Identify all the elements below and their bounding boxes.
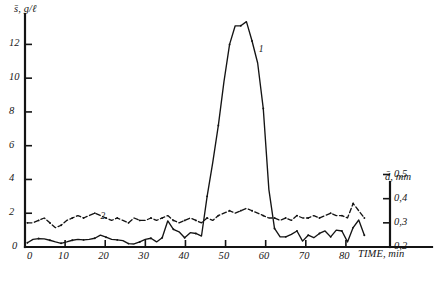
series-1-point xyxy=(363,234,365,236)
y-axis-tick-label: 8 xyxy=(9,106,14,117)
curve-2-label: 2 xyxy=(101,212,106,222)
series-2-point xyxy=(83,217,85,219)
y2-axis-tick-label: 0,5 xyxy=(394,169,407,180)
series-1-point xyxy=(251,40,253,42)
series-1-point xyxy=(172,228,174,230)
series-1-point xyxy=(38,238,40,240)
figure-container: s̄, g/ℓ d̄, mm TIME, min 1 2 024681012 0… xyxy=(0,0,437,281)
y2-axis-tick-label: 0,2 xyxy=(394,241,407,252)
x-axis-tick-label: 40 xyxy=(178,251,189,262)
series-2-point xyxy=(251,210,253,212)
series-1-point xyxy=(341,230,343,232)
series-1-point xyxy=(150,237,152,239)
series-2-point xyxy=(49,222,51,224)
y2-axis-tick-label: 0,3 xyxy=(394,217,407,228)
series-2-point xyxy=(206,217,208,219)
series-2-point xyxy=(318,217,320,219)
series-group xyxy=(26,22,365,245)
series-1-point xyxy=(71,239,73,241)
series-2-point xyxy=(184,219,186,221)
series-2-point xyxy=(161,217,163,219)
series-1-point xyxy=(262,108,264,110)
series-2-point xyxy=(38,219,40,221)
series-1-point xyxy=(161,237,163,239)
x-axis-tick-label: 80 xyxy=(339,251,350,262)
series-1-point xyxy=(128,243,130,245)
series-2-point xyxy=(240,210,242,212)
y-axis-title: s̄, g/ℓ xyxy=(14,4,36,15)
x-axis-tick-label: 20 xyxy=(98,251,109,262)
series-1-point xyxy=(26,242,28,244)
y2-axis-tick-label: 0,4 xyxy=(394,193,407,204)
series-2-point xyxy=(285,217,287,219)
series-1-point xyxy=(94,237,96,239)
series-1-point xyxy=(274,227,276,229)
series-1-point xyxy=(116,239,118,241)
series-1-point xyxy=(206,195,208,197)
series-2-point xyxy=(94,212,96,214)
series-2-point xyxy=(229,210,231,212)
series-1-point xyxy=(195,233,197,235)
series-2-point xyxy=(195,219,197,221)
curve-1-label: 1 xyxy=(259,45,264,55)
y-axis-tick-label: 0 xyxy=(12,241,17,252)
series-2-point xyxy=(262,215,264,217)
series-2-point xyxy=(26,222,28,224)
series-1-point xyxy=(139,241,141,243)
series-2-point xyxy=(71,217,73,219)
series-1-point xyxy=(285,236,287,238)
series-1-point xyxy=(60,242,62,244)
x-axis-tick-label: 50 xyxy=(219,251,230,262)
y-axis-tick-label: 2 xyxy=(9,207,14,218)
series-2-point xyxy=(363,217,365,219)
series-1-point xyxy=(240,25,242,27)
series-1-point xyxy=(296,230,298,232)
series-2-point xyxy=(274,217,276,219)
series-1-point xyxy=(184,237,186,239)
series-2-point xyxy=(60,224,62,226)
series-2-point xyxy=(307,217,309,219)
y-axis-tick-label: 4 xyxy=(9,173,14,184)
x-axis-tick-label: 30 xyxy=(138,251,149,262)
series-2-point xyxy=(217,215,219,217)
series-line-2 xyxy=(27,204,364,228)
series-2-point xyxy=(139,219,141,221)
series-1-point xyxy=(352,227,354,229)
series-2-point xyxy=(128,222,130,224)
x-axis-tick-label: 0 xyxy=(27,251,32,262)
series-2-point xyxy=(330,212,332,214)
series-2-point xyxy=(150,217,152,219)
x-axis-tick-label: 60 xyxy=(259,251,270,262)
series-2-point xyxy=(296,215,298,217)
series-1-point xyxy=(330,236,332,238)
series-1-point xyxy=(217,124,219,126)
series-1-point xyxy=(49,239,51,241)
series-1-point xyxy=(105,236,107,238)
series-2-point xyxy=(172,219,174,221)
x-axis-tick-label: 10 xyxy=(58,251,69,262)
series-line-1 xyxy=(27,22,364,244)
series-1-point xyxy=(83,239,85,241)
series-1-point xyxy=(229,43,231,45)
series-2-point xyxy=(341,215,343,217)
chart-plot-area xyxy=(0,0,437,281)
x-axis-tick-label: 70 xyxy=(299,251,310,262)
series-2-point xyxy=(116,217,118,219)
series-1-point xyxy=(307,234,309,236)
y-axis-tick-label: 12 xyxy=(9,38,20,49)
y-axis-tick-label: 10 xyxy=(9,72,20,83)
series-2-point xyxy=(352,203,354,205)
series-1-point xyxy=(318,233,320,235)
y-axis-tick-label: 6 xyxy=(9,140,14,151)
